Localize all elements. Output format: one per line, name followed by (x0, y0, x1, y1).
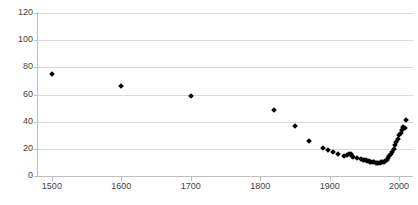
x-tick-mark-1900 (330, 177, 331, 181)
gridline-y-60 (38, 95, 413, 96)
scatter-chart: 020406080100120 150016001700180019002000 (0, 0, 418, 205)
x-tick-label-1500: 1500 (32, 182, 72, 191)
gridline-y-40 (38, 122, 413, 123)
x-tick-label-1900: 1900 (310, 182, 350, 191)
x-tick-mark-1700 (191, 177, 192, 181)
x-tick-label-2000: 2000 (379, 182, 418, 191)
data-point (49, 71, 55, 77)
data-point (335, 151, 341, 157)
gridline-y-120 (38, 13, 413, 14)
y-tick-label-100: 100 (2, 35, 33, 44)
x-tick-mark-1800 (260, 177, 261, 181)
x-tick-mark-2000 (399, 177, 400, 181)
gridline-y-100 (38, 40, 413, 41)
y-tick-label-120: 120 (2, 8, 33, 17)
gridline-y-20 (38, 149, 413, 150)
x-tick-mark-1500 (52, 177, 53, 181)
y-tick-label-0: 0 (2, 171, 33, 180)
data-point (306, 139, 312, 145)
data-point (118, 83, 124, 89)
x-tick-label-1800: 1800 (240, 182, 280, 191)
data-point (292, 124, 298, 130)
y-tick-label-80: 80 (2, 62, 33, 71)
y-tick-label-20: 20 (2, 144, 33, 153)
x-tick-label-1700: 1700 (171, 182, 211, 191)
gridline-y-0 (38, 176, 413, 177)
gridline-y-80 (38, 67, 413, 68)
y-tick-label-60: 60 (2, 90, 33, 99)
plot-area (38, 13, 413, 176)
x-tick-mark-1600 (121, 177, 122, 181)
data-point (271, 107, 277, 113)
y-tick-label-40: 40 (2, 117, 33, 126)
x-tick-label-1600: 1600 (101, 182, 141, 191)
